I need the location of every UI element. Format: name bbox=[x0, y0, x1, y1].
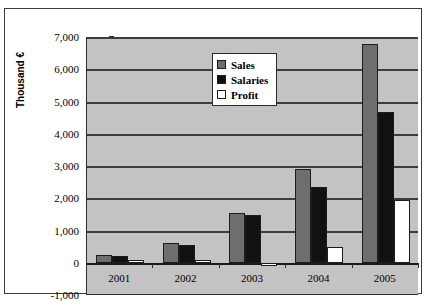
bar-profit-2002 bbox=[195, 260, 211, 263]
bar-profit-2005 bbox=[394, 200, 410, 263]
legend-item-salaries: Salaries bbox=[217, 72, 268, 87]
bar-salaries-2003 bbox=[245, 215, 261, 262]
x-axis-tick-mark bbox=[86, 263, 87, 268]
x-axis-tick-mark bbox=[152, 263, 153, 268]
x-axis-tick-label-2005: 2005 bbox=[355, 272, 415, 284]
bar-sales-2001 bbox=[96, 255, 112, 263]
bar-sales-2005 bbox=[362, 44, 378, 263]
bar-profit-2001 bbox=[128, 260, 144, 263]
y-axis-tick-label: 6,000 bbox=[33, 64, 79, 75]
x-axis-tick-mark bbox=[352, 263, 353, 268]
legend-item-profit: Profit bbox=[217, 87, 268, 102]
legend-item-sales: Sales bbox=[217, 57, 268, 72]
y-axis-tick-label: 7,000 bbox=[33, 32, 79, 43]
bar-salaries-2001 bbox=[112, 256, 128, 262]
bar-profit-2003 bbox=[261, 263, 277, 266]
y-axis-tick-label: 5,000 bbox=[33, 97, 79, 108]
x-axis-tick-label-2003: 2003 bbox=[222, 272, 282, 284]
bar-salaries-2004 bbox=[311, 187, 327, 263]
y-axis-title: Thousand € bbox=[15, 30, 31, 130]
y-axis-tick-label: -1,000 bbox=[33, 290, 79, 301]
x-axis-tick-label-2002: 2002 bbox=[156, 272, 216, 284]
y-axis-tick-label: 4,000 bbox=[33, 129, 79, 140]
chart-legend: SalesSalariesProfit bbox=[212, 53, 277, 106]
x-axis-tick-label-2001: 2001 bbox=[89, 272, 149, 284]
bar-salaries-2002 bbox=[179, 245, 195, 263]
legend-label: Salaries bbox=[231, 74, 268, 86]
legend-swatch-salaries-icon bbox=[217, 75, 226, 84]
chart-frame: Thousand € 7,0006,0005,0004,0003,0002,00… bbox=[4, 8, 422, 294]
legend-swatch-profit-icon bbox=[217, 90, 226, 99]
legend-label: Profit bbox=[231, 89, 258, 101]
bar-salaries-2005 bbox=[378, 112, 394, 263]
x-axis-tick-mark bbox=[285, 263, 286, 268]
bar-sales-2004 bbox=[295, 169, 311, 263]
bar-profit-2004 bbox=[327, 247, 343, 262]
x-axis-tick-mark bbox=[219, 263, 220, 268]
x-axis-tick-label-2004: 2004 bbox=[288, 272, 348, 284]
legend-swatch-sales-icon bbox=[217, 60, 226, 69]
legend-label: Sales bbox=[231, 59, 255, 71]
bar-sales-2002 bbox=[163, 243, 179, 263]
y-axis-tick-label: 3,000 bbox=[33, 161, 79, 172]
x-axis-tick-mark bbox=[418, 263, 419, 268]
y-axis-tick-label: 1,000 bbox=[33, 226, 79, 237]
y-axis-tick-label: 0 bbox=[33, 258, 79, 269]
y-axis-tick-labels: 7,0006,0005,0004,0003,0002,0001,0000-1,0… bbox=[33, 9, 79, 302]
bar-sales-2003 bbox=[229, 213, 245, 262]
y-axis-tick-label: 2,000 bbox=[33, 193, 79, 204]
